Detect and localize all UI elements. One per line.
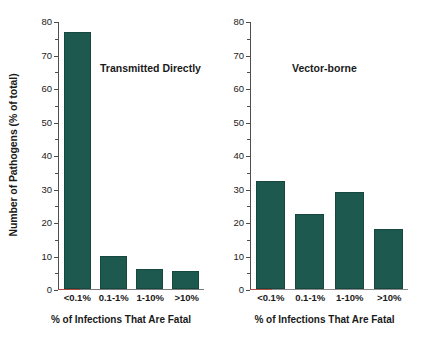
y-tick: [246, 290, 250, 291]
bar-cell: [95, 22, 131, 289]
y-tick-minor: [55, 240, 58, 241]
x-tick-label: 1-10%: [132, 292, 169, 303]
bar-cell: [251, 22, 290, 289]
x-tick-label: 0.1-1%: [291, 292, 331, 303]
x-tick-label-group: <0.1%0.1-1%1-10%>10%: [251, 292, 409, 303]
y-tick-minor: [247, 139, 250, 140]
y-tick: [246, 223, 250, 224]
y-tick: [246, 123, 250, 124]
bar: [172, 271, 199, 289]
y-tick-minor: [55, 39, 58, 40]
x-axis-line: [250, 289, 408, 290]
y-tick: [54, 290, 58, 291]
y-tick-minor: [55, 72, 58, 73]
x-tick-label-group: <0.1%0.1-1%1-10%>10%: [59, 292, 205, 303]
x-axis-accent: [250, 289, 272, 290]
y-tick: [246, 56, 250, 57]
y-tick: [54, 22, 58, 23]
y-tick-label: 40: [41, 151, 52, 161]
y-tick-label: 30: [41, 185, 52, 195]
y-tick: [246, 89, 250, 90]
y-tick-minor: [55, 206, 58, 207]
bar: [136, 269, 163, 289]
y-tick-label: 10: [233, 252, 244, 262]
plot-area: 01020304050607080: [250, 22, 408, 290]
bar-cell: [369, 22, 408, 289]
y-tick-minor: [247, 106, 250, 107]
bar: [335, 192, 364, 289]
y-tick-label: 80: [233, 17, 244, 27]
y-tick-label: 50: [41, 118, 52, 128]
y-tick: [54, 56, 58, 57]
y-tick: [54, 89, 58, 90]
chart-panel-transmitted-directly: Transmitted Directly 01020304050607080 <…: [26, 0, 216, 338]
y-tick-minor: [247, 273, 250, 274]
y-tick: [54, 123, 58, 124]
y-tick-label: 40: [233, 151, 244, 161]
x-axis-accent: [58, 289, 80, 290]
y-tick-minor: [55, 139, 58, 140]
bar: [256, 181, 285, 289]
y-tick-label: 80: [41, 17, 52, 27]
x-tick-label: <0.1%: [251, 292, 291, 303]
y-axis-label: Number of Pathogens (% of total): [7, 73, 19, 236]
y-tick-label: 50: [233, 118, 244, 128]
x-tick-label: 1-10%: [330, 292, 370, 303]
y-axis-label-container: Number of Pathogens (% of total): [0, 0, 26, 310]
y-tick: [54, 257, 58, 258]
x-axis-label: % of Infections That Are Fatal: [26, 314, 216, 325]
y-tick-label: 10: [41, 252, 52, 262]
y-tick: [54, 156, 58, 157]
chart-panel-vector-borne: Vector-borne 01020304050607080 <0.1%0.1-…: [218, 0, 423, 338]
bar: [64, 32, 91, 289]
bar-cell: [168, 22, 204, 289]
y-tick-minor: [55, 173, 58, 174]
y-tick: [54, 223, 58, 224]
y-tick-minor: [247, 72, 250, 73]
bar-cell: [290, 22, 329, 289]
y-tick: [246, 22, 250, 23]
y-tick: [246, 156, 250, 157]
y-tick-label: 0: [47, 285, 52, 295]
bar-cell: [59, 22, 95, 289]
y-tick-label: 60: [233, 84, 244, 94]
x-axis-label: % of Infections That Are Fatal: [222, 314, 423, 325]
y-tick: [246, 190, 250, 191]
bar: [374, 229, 403, 289]
y-tick-label: 70: [41, 51, 52, 61]
y-tick-label: 20: [233, 218, 244, 228]
figure: Number of Pathogens (% of total) Transmi…: [0, 0, 423, 338]
y-tick-label: 70: [233, 51, 244, 61]
plot-area: 01020304050607080: [58, 22, 204, 290]
y-tick-minor: [247, 173, 250, 174]
y-tick-minor: [247, 206, 250, 207]
y-tick-minor: [247, 240, 250, 241]
y-tick-label: 30: [233, 185, 244, 195]
bar-cell: [330, 22, 369, 289]
y-tick-minor: [55, 106, 58, 107]
y-tick: [246, 257, 250, 258]
x-tick-label: <0.1%: [59, 292, 96, 303]
y-tick: [54, 190, 58, 191]
x-tick-label: 0.1-1%: [96, 292, 133, 303]
x-tick-label: >10%: [169, 292, 206, 303]
bar-group: [59, 22, 204, 289]
bar-cell: [132, 22, 168, 289]
bar-group: [251, 22, 408, 289]
x-tick-label: >10%: [370, 292, 410, 303]
bar: [295, 214, 324, 289]
y-tick-minor: [247, 39, 250, 40]
y-tick-label: 20: [41, 218, 52, 228]
bar: [100, 256, 127, 289]
y-tick-minor: [55, 273, 58, 274]
y-tick-label: 0: [239, 285, 244, 295]
y-tick-label: 60: [41, 84, 52, 94]
